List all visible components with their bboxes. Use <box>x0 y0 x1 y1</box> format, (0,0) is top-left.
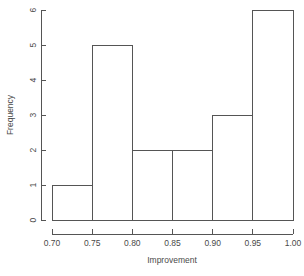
y-tick-label: 0 <box>28 217 38 222</box>
y-tick-label: 4 <box>28 77 38 82</box>
y-tick-label: 3 <box>28 112 38 117</box>
x-tick-label: 0.80 <box>124 238 141 248</box>
x-tick-label: 0.70 <box>44 238 61 248</box>
x-axis: 0.700.750.800.850.900.951.00 <box>44 229 302 248</box>
histogram-bar <box>92 45 132 220</box>
y-axis: 0123456 <box>28 7 46 222</box>
histogram-bar <box>253 10 293 220</box>
x-tick-label: 0.90 <box>204 238 221 248</box>
histogram-bar <box>132 150 172 220</box>
x-axis-title: Improvement <box>147 255 197 265</box>
y-tick-label: 2 <box>28 147 38 152</box>
x-tick-label: 0.75 <box>84 238 101 248</box>
y-tick-label: 6 <box>28 7 38 12</box>
histogram-bar <box>213 115 253 220</box>
x-tick-label: 1.00 <box>285 238 302 248</box>
bars-group <box>52 10 293 220</box>
x-tick-label: 0.85 <box>164 238 181 248</box>
y-axis-title: Frequency <box>5 94 15 135</box>
y-tick-label: 5 <box>28 42 38 47</box>
x-tick-label: 0.95 <box>245 238 262 248</box>
histogram-bar <box>173 150 213 220</box>
histogram-bar <box>52 185 92 220</box>
histogram-figure: 0.700.750.800.850.900.951.00 0123456 Imp… <box>0 0 304 276</box>
plot-canvas: 0.700.750.800.850.900.951.00 0123456 Imp… <box>0 0 304 276</box>
y-tick-label: 1 <box>28 182 38 187</box>
